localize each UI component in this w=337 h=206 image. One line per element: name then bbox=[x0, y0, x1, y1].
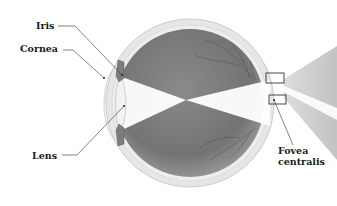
cornea-leader-line bbox=[63, 50, 104, 78]
fovea-centralis-label: Fovea centralis bbox=[278, 145, 325, 167]
cornea-label: Cornea bbox=[20, 43, 58, 54]
iris-label: Iris bbox=[36, 20, 54, 31]
eye-diagram: Iris Cornea Lens Fovea centralis bbox=[0, 0, 337, 206]
iris-leader-line bbox=[58, 26, 122, 75]
fovea-label-line2: centralis bbox=[278, 156, 325, 167]
fovea-label-line1: Fovea bbox=[278, 145, 325, 156]
fovea-leader-line bbox=[274, 100, 293, 145]
lens-label: Lens bbox=[32, 150, 57, 161]
